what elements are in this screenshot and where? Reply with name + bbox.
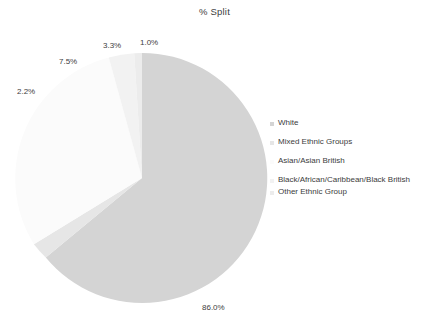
chart-legend: White Mixed Ethnic Groups Asian/Asian Br… (270, 118, 429, 206)
legend-swatch-icon (270, 141, 274, 145)
pie-label-mixed-ethnic-groups: 2.2% (17, 87, 35, 96)
legend-label-asian-asian-british: Asian/Asian British (278, 156, 345, 166)
legend-item-other-ethnic-group[interactable]: Other Ethnic Group (270, 187, 429, 197)
pie-label-black-african-caribbean-black-british: 3.3% (103, 41, 121, 50)
legend-label-other-ethnic-group: Other Ethnic Group (278, 187, 347, 197)
pie-label-asian-asian-british: 7.5% (59, 57, 77, 66)
legend-swatch-icon (270, 160, 274, 164)
legend-item-mixed-ethnic-groups[interactable]: Mixed Ethnic Groups (270, 137, 429, 147)
legend-swatch-icon (270, 122, 274, 126)
legend-label-black-african-caribbean-black-british: Black/African/Caribbean/Black British (278, 175, 410, 185)
legend-label-mixed-ethnic-groups: Mixed Ethnic Groups (278, 137, 352, 147)
legend-item-black-african-caribbean-black-british[interactable]: Black/African/Caribbean/Black British (270, 175, 429, 185)
legend-item-white[interactable]: White (270, 118, 429, 128)
pie-chart: % Split 86.0% 2.2% 7.5% 3.3% 1.0% White (0, 0, 429, 332)
legend-label-white: White (278, 118, 298, 128)
legend-swatch-icon (270, 179, 274, 183)
legend-item-asian-asian-british[interactable]: Asian/Asian British (270, 156, 429, 166)
legend-swatch-icon (270, 191, 274, 195)
pie-svg (0, 0, 290, 332)
pie-label-other-ethnic-group: 1.0% (140, 38, 158, 47)
pie-label-white: 86.0% (202, 303, 225, 312)
pie-plot-area: 86.0% 2.2% 7.5% 3.3% 1.0% (0, 0, 290, 332)
